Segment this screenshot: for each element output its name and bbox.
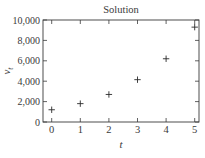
y-tick-label: 0 [35, 117, 40, 128]
chart-canvas: Solution 02,0004,0006,0008,00010,000 012… [0, 0, 205, 158]
data-point-marker [49, 107, 55, 113]
x-tick-label: 3 [135, 124, 140, 135]
x-axis-label: t [119, 138, 123, 150]
x-tick-label: 0 [49, 124, 54, 135]
data-point-marker [106, 91, 112, 97]
y-axis-label: vt [0, 67, 15, 75]
y-tick-label: 6,000 [18, 55, 41, 66]
y-tick-label: 10,000 [13, 15, 41, 26]
chart-title: Solution [103, 4, 139, 15]
data-point-marker [134, 76, 140, 82]
y-tick-label: 4,000 [18, 76, 41, 87]
x-tick-label: 1 [78, 124, 83, 135]
y-tick-label: 2,000 [18, 96, 41, 107]
plot-border [43, 20, 199, 122]
plot-frame [43, 20, 199, 122]
data-point-marker [77, 100, 83, 106]
data-points [49, 24, 198, 113]
scatter-chart: Solution 02,0004,0006,0008,00010,000 012… [0, 0, 205, 158]
x-axis-ticks: 012345 [49, 20, 197, 135]
x-tick-label: 4 [163, 124, 169, 135]
x-tick-label: 2 [106, 124, 111, 135]
data-point-marker [192, 24, 198, 30]
y-tick-label: 8,000 [18, 35, 41, 46]
y-axis-label-subscript: t [6, 67, 15, 70]
y-axis-ticks: 02,0004,0006,0008,00010,000 [13, 15, 200, 128]
x-tick-label: 5 [192, 124, 197, 135]
data-point-marker [163, 56, 169, 62]
